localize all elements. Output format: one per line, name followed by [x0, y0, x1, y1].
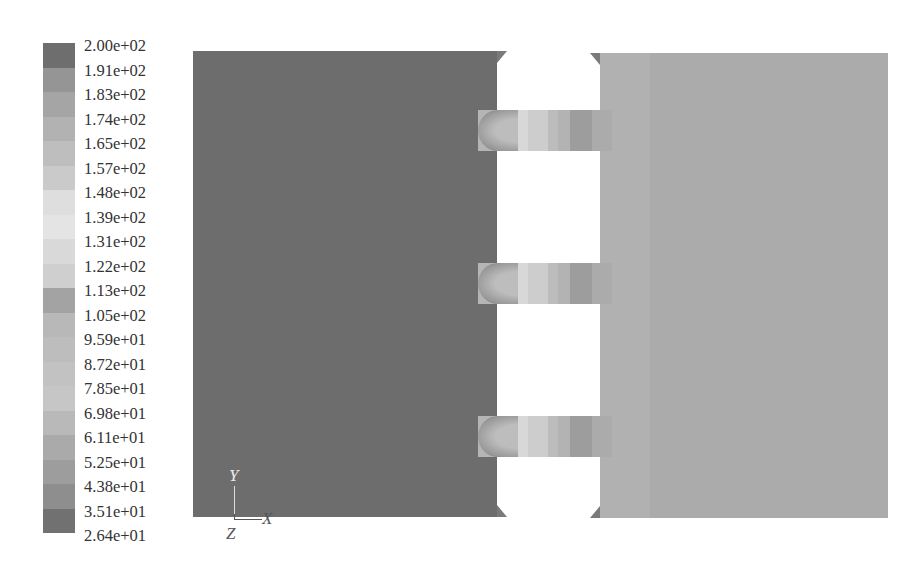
legend-label: 1.22e+02	[84, 255, 146, 280]
connector-top	[478, 110, 612, 151]
connector-middle	[478, 263, 612, 304]
axis-y-line	[234, 486, 235, 514]
legend-label: 1.57e+02	[84, 157, 146, 182]
legend-label: 6.11e+01	[84, 426, 146, 451]
legend-swatch	[43, 337, 75, 362]
legend-label: 1.83e+02	[84, 83, 146, 108]
axis-x-label: X	[262, 509, 272, 529]
legend-swatch	[43, 215, 75, 240]
legend-swatch	[43, 288, 75, 313]
right-domain-block	[600, 53, 888, 518]
legend-label: 6.98e+01	[84, 402, 146, 427]
legend-label: 3.51e+01	[84, 500, 146, 525]
chamfer-top-left	[497, 51, 507, 63]
legend-swatch	[43, 190, 75, 215]
legend-swatch	[43, 166, 75, 191]
legend-swatch	[43, 141, 75, 166]
legend-swatch	[43, 386, 75, 411]
axis-y-label: Y	[229, 466, 238, 486]
legend-swatch	[43, 509, 75, 534]
legend-label: 1.39e+02	[84, 206, 146, 231]
legend-label: 1.31e+02	[84, 230, 146, 255]
chamfer-bottom-left	[497, 505, 507, 517]
legend-label: 2.00e+02	[84, 34, 146, 59]
legend-labels: 2.00e+021.91e+021.83e+021.74e+021.65e+02…	[84, 34, 146, 549]
legend-label: 8.72e+01	[84, 353, 146, 378]
axis-x-line	[234, 519, 262, 520]
connector-bottom	[478, 416, 612, 457]
legend-swatch	[43, 313, 75, 338]
legend-label: 5.25e+01	[84, 451, 146, 476]
chamfer-bottom-right	[590, 506, 600, 518]
legend-swatch	[43, 460, 75, 485]
legend-swatch	[43, 264, 75, 289]
legend-label: 4.38e+01	[84, 475, 146, 500]
legend-label: 1.13e+02	[84, 279, 146, 304]
axis-z-label: Z	[226, 524, 235, 544]
axis-triad: Y X Z	[226, 462, 296, 552]
legend-label: 1.48e+02	[84, 181, 146, 206]
legend-swatch	[43, 43, 75, 68]
legend-swatch	[43, 484, 75, 509]
legend-label: 1.74e+02	[84, 108, 146, 133]
legend-swatch	[43, 117, 75, 142]
legend-label: 1.91e+02	[84, 59, 146, 84]
chamfer-top-right	[590, 53, 600, 65]
legend-swatch	[43, 92, 75, 117]
legend-label: 1.65e+02	[84, 132, 146, 157]
legend-label: 7.85e+01	[84, 377, 146, 402]
legend-swatch	[43, 239, 75, 264]
left-domain-block	[193, 51, 497, 517]
legend-label: 1.05e+02	[84, 304, 146, 329]
legend-label: 9.59e+01	[84, 328, 146, 353]
legend-swatch	[43, 435, 75, 460]
legend-color-bar	[43, 43, 75, 533]
legend-swatch	[43, 68, 75, 93]
legend-swatch	[43, 362, 75, 387]
legend-label: 2.64e+01	[84, 524, 146, 549]
legend-swatch	[43, 411, 75, 436]
